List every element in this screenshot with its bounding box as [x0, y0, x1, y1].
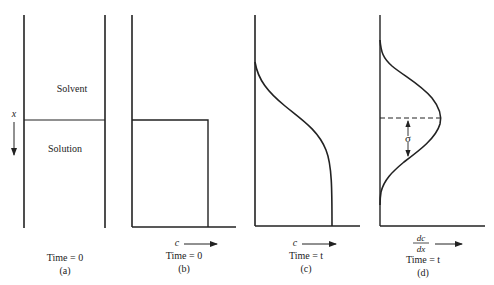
sigma-label: σ	[405, 132, 411, 144]
diffusion-diagram: Solvent Solution x Time = 0 (a) c Time =…	[0, 0, 494, 285]
panel-c: c Time = t (c)	[255, 15, 360, 275]
panel-label-c: (c)	[300, 263, 311, 275]
time-label-d: Time = t	[406, 254, 440, 265]
c-axis-label-c: c	[293, 237, 298, 248]
dx-label: dx	[417, 244, 426, 254]
panel-b: c Time = 0 (b)	[132, 15, 236, 275]
x-axis-label: x	[11, 108, 17, 119]
concentration-curve	[255, 62, 332, 226]
panel-a: Solvent Solution x Time = 0 (a)	[11, 15, 105, 277]
panel-label-a: (a)	[59, 265, 70, 277]
time-label-a: Time = 0	[47, 252, 83, 263]
panel-d: σ dc dx Time = t (d)	[380, 15, 485, 279]
solvent-label: Solvent	[57, 83, 88, 94]
step-profile	[132, 120, 208, 227]
panel-label-d: (d)	[417, 267, 429, 279]
c-axis-label-b: c	[175, 237, 180, 248]
solution-label: Solution	[48, 143, 82, 154]
panel-label-b: (b)	[178, 263, 190, 275]
time-label-b: Time = 0	[166, 250, 202, 261]
dc-label: dc	[417, 233, 426, 243]
gradient-gaussian-curve	[380, 40, 441, 205]
time-label-c: Time = t	[289, 250, 323, 261]
